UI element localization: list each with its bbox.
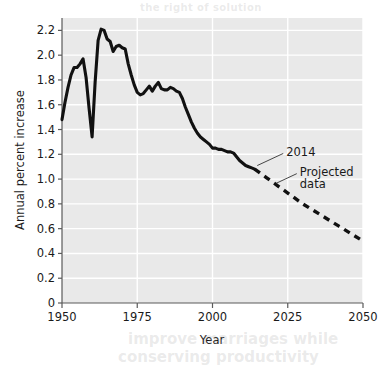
- annotation-label-projected-line2: data: [300, 177, 326, 191]
- y-tick-label: 1.8: [37, 73, 55, 87]
- x-tick-label: 1950: [47, 310, 76, 324]
- y-tick-label: 2.0: [37, 48, 55, 62]
- y-tick-label: 1.0: [37, 172, 55, 186]
- y-axis-title: Annual percent increase: [13, 90, 27, 230]
- y-tick-label: 0.2: [37, 271, 55, 285]
- x-tick-label: 2025: [273, 310, 302, 324]
- x-axis-ticks: [62, 303, 363, 308]
- y-tick-label: 2.2: [37, 23, 55, 37]
- y-tick-label: 1.4: [37, 123, 55, 137]
- y-tick-label: 0.8: [37, 197, 55, 211]
- y-tick-label: 0.4: [37, 246, 55, 260]
- x-tick-label: 2050: [348, 310, 377, 324]
- y-axis-tick-labels: 00.20.40.60.81.01.21.41.61.82.02.2: [37, 23, 55, 310]
- y-tick-label: 1.6: [37, 98, 55, 112]
- y-tick-label: 0.6: [37, 222, 55, 236]
- x-axis-tick-labels: 19501975200020252050: [47, 310, 377, 324]
- annotation-label-2014: 2014: [286, 145, 315, 159]
- x-axis-title: Year: [199, 333, 225, 347]
- y-tick-label: 1.2: [37, 147, 55, 161]
- x-tick-label: 1975: [123, 310, 152, 324]
- y-tick-label: 0: [48, 296, 55, 310]
- x-tick-label: 2000: [198, 310, 227, 324]
